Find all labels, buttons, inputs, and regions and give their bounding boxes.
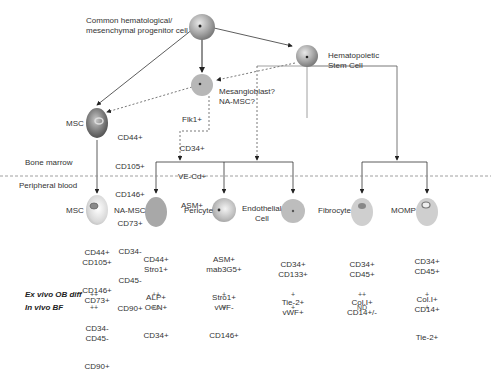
arrow-progenitor-to-msc <box>97 29 193 105</box>
na-msc-blood-cell <box>145 197 167 227</box>
msc-blood-label: MSC <box>66 206 84 216</box>
arrow-hsc-to-mesangioblast <box>217 63 295 80</box>
peripheral-blood-label: Peripheral blood <box>19 181 77 191</box>
arrow-progenitor-to-hsc <box>214 28 292 46</box>
endothelial-ex-vivo-value: + <box>278 291 308 298</box>
pericyte-in-vivo-value: + <box>209 304 239 311</box>
momp-in-vivo-value: + <box>412 304 442 311</box>
na-msc-in-vivo-value: +/- <box>141 304 171 311</box>
msc-in-vivo-value: ++ <box>79 304 109 311</box>
momp-label: MOMP <box>391 206 416 216</box>
na-msc-ex-vivo-value: ++ <box>141 291 171 298</box>
ex-vivo-row-label: Ex vivo OB diff <box>25 290 82 299</box>
pericyte-cell <box>212 198 236 222</box>
fibrocyte-label: Fibrocyte <box>318 206 351 216</box>
momp-ex-vivo-value: + <box>412 291 442 298</box>
fibrocyte-in-vivo-value: ND <box>347 304 377 311</box>
mesangioblast-label: Mesangioblast? NA-MSC? <box>219 87 275 106</box>
msc-marrow-cell <box>86 108 108 138</box>
msc-blood-markers: CD44+CD105+ CD146+CD73+ CD34-CD45- CD90+ <box>77 229 117 373</box>
pericyte-label: Pericyte <box>184 206 213 216</box>
bone-marrow-label: Bone marrow <box>25 158 73 168</box>
msc-marrow-label: MSC <box>66 119 84 129</box>
momp-cell <box>416 198 438 226</box>
pericyte-ex-vivo-value: + <box>209 291 239 298</box>
mesangioblast-markers: Flk1+ CD34+ VE-Cd+ ASM+ <box>172 96 212 220</box>
hsc-label: Hematopoietic Stem Cell <box>328 51 379 70</box>
endothelial-in-vivo-value: + <box>278 304 308 311</box>
mesangioblast-cell <box>191 74 213 96</box>
hsc-cell <box>296 45 318 67</box>
msc-ex-vivo-value: ++ <box>79 291 109 298</box>
na-msc-label: NA-MSC <box>114 206 146 216</box>
fibrocyte-cell <box>351 198 373 226</box>
common-progenitor-label: Common hematological/ mesenchymal progen… <box>86 16 188 35</box>
endothelial-markers: CD34+CD133+ Tie-2+vWF+ <box>273 241 313 327</box>
in-vivo-row-label: In vivo BF <box>25 303 63 312</box>
endothelial-cell <box>281 199 305 223</box>
fibrocyte-ex-vivo-value: ++ <box>347 291 377 298</box>
msc-blood-cell <box>86 195 108 225</box>
fibrocyte-markers: CD34+CD45+ Col.I+CD14+/- <box>342 241 382 327</box>
arrow-hsc-solid-down <box>362 66 397 160</box>
endothelial-label: Endothelial Cell <box>242 204 282 223</box>
common-progenitor-cell <box>189 14 215 40</box>
